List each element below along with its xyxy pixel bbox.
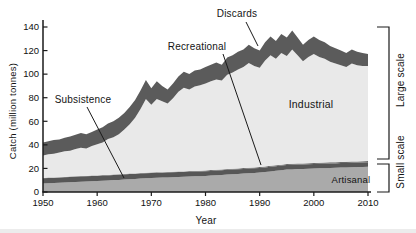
y-tick-label: 80 — [28, 92, 39, 103]
discards-label: Discards — [217, 9, 258, 19]
x-tick-label: 1970 — [141, 197, 162, 208]
x-tick-label: 1950 — [32, 197, 53, 208]
large-scale-bracket — [377, 27, 389, 159]
small-scale-bracket — [377, 164, 389, 192]
y-tick-label: 100 — [23, 68, 39, 79]
x-tick-label: 1980 — [195, 197, 216, 208]
x-tick-label: 2010 — [357, 197, 378, 208]
discards-leader-line — [246, 22, 258, 46]
recreational-label: Recreational — [168, 42, 227, 52]
y-tick-label: 60 — [28, 116, 39, 127]
y-tick-label: 0 — [34, 186, 39, 197]
y-tick-label: 120 — [23, 45, 39, 56]
x-tick-label: 1990 — [249, 197, 270, 208]
catch-stacked-area-figure: 0204060801001201401950196019701980199020… — [0, 0, 416, 233]
y-tick-label: 20 — [28, 163, 39, 174]
y-axis-title: Catch (million tonnes) — [8, 63, 18, 159]
scale-brackets — [377, 27, 389, 192]
page-edge-strip — [0, 229, 416, 233]
y-tick-label: 40 — [28, 139, 39, 150]
x-tick-label: 2000 — [303, 197, 324, 208]
x-tick-label: 1960 — [87, 197, 108, 208]
subsistence-label: Subsistence — [55, 95, 112, 105]
artisanal-label: Artisanal — [332, 175, 371, 185]
x-axis-title: Year — [195, 216, 216, 226]
y-tick-label: 140 — [23, 21, 39, 32]
industrial-label: Industrial — [289, 99, 334, 110]
stacked-area-chart: 0204060801001201401950196019701980199020… — [0, 0, 416, 233]
stacked-areas — [43, 31, 368, 193]
small-scale-label: Small scale — [396, 135, 406, 188]
large-scale-label: Large scale — [396, 53, 406, 107]
